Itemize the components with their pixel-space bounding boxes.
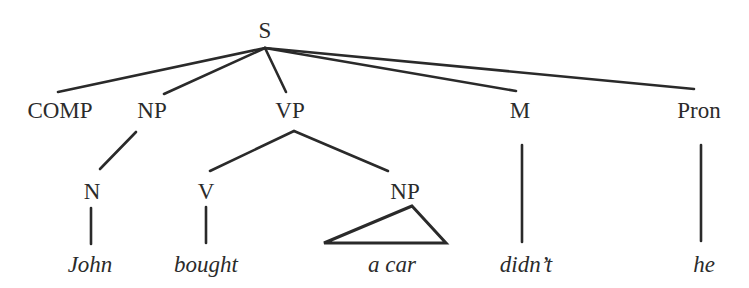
np-triangle-icon [324,206,446,243]
word-didnt: didn’t [500,252,553,277]
node-np: NP [137,98,166,123]
syntax-tree: S COMP NP VP M Pron N V NP John bought a… [0,0,749,288]
node-n: N [84,179,101,204]
terminal-words: John bought a car didn’t he [68,252,715,277]
node-s: S [259,18,272,43]
node-labels: S COMP NP VP M Pron N V NP [27,18,721,204]
edge-np-n [100,132,136,169]
node-comp: COMP [27,98,92,123]
edge-s-comp [58,48,265,92]
word-a-car: a car [368,252,417,277]
word-john: John [68,252,113,277]
word-bought: bought [174,252,239,277]
node-pron: Pron [677,98,721,123]
node-np-object: NP [390,179,419,204]
edge-vp-v [210,131,294,171]
edge-vp-np [294,131,388,171]
edges [58,48,701,244]
node-vp: VP [275,98,304,123]
edge-s-np [164,48,265,94]
node-v: V [198,179,215,204]
edge-s-vp [265,48,286,92]
word-he: he [693,252,715,277]
node-m: M [510,98,530,123]
edge-s-pron [265,48,694,89]
